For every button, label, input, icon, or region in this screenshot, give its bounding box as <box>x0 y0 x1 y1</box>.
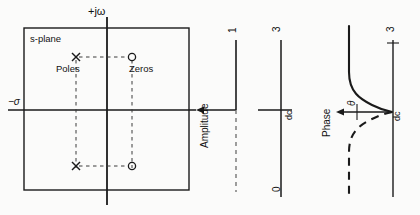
amplitude-dc-label: dc <box>285 110 294 120</box>
diagram-svg <box>0 0 420 215</box>
amplitude-axis-label: Amplitude <box>200 104 210 148</box>
phase-top-tick-label: 3 <box>386 26 396 32</box>
phase-panel <box>336 26 399 198</box>
zeros-label: Zeros <box>129 64 153 74</box>
phase-curve-dashed <box>349 112 392 198</box>
amplitude-bottom-tick-label: 0 <box>272 186 282 192</box>
pole-marker-lower <box>72 162 80 170</box>
amplitude-panel <box>196 40 292 197</box>
phase-arrow-head <box>336 109 344 116</box>
phase-dc-label: dc <box>393 111 402 121</box>
amplitude-top-tick-label: 3 <box>272 26 282 32</box>
zero-marker-upper <box>128 53 135 60</box>
theta-label: θ <box>347 101 357 106</box>
s-plane-panel <box>8 17 196 205</box>
phase-axis-label: Phase <box>322 109 332 137</box>
sigma-axis-label: −σ <box>8 97 20 107</box>
s-plane-label: s-plane <box>30 34 61 44</box>
amplitude-peak-label: 1 <box>228 27 238 33</box>
figure-container: +jω s-plane Poles Zeros −σ Amplitude 1 3… <box>0 0 420 215</box>
pole-marker-upper <box>72 53 80 61</box>
phase-curve-solid <box>349 26 392 112</box>
jomega-axis-label: +jω <box>88 6 105 17</box>
poles-label: Poles <box>56 64 80 74</box>
